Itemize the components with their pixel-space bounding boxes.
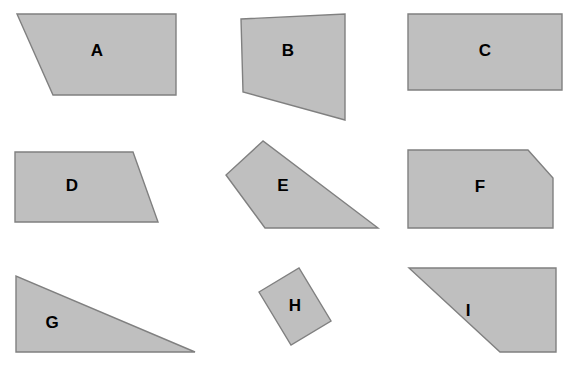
shape-i-outline[interactable] [409,268,556,352]
shape-label-a: A [91,41,103,60]
shape-c[interactable]: C [408,14,562,90]
shape-label-e: E [277,176,288,195]
shape-label-h: H [289,296,301,315]
shape-b[interactable]: B [241,14,345,120]
shapes-diagram: ABCDEFGHI [0,0,570,367]
shape-label-g: G [45,313,58,332]
shape-d-outline[interactable] [15,152,158,222]
shape-label-f: F [475,177,485,196]
shape-a[interactable]: A [17,14,176,95]
shape-g[interactable]: G [16,276,195,352]
shape-e[interactable]: E [226,141,378,228]
shape-e-outline[interactable] [226,141,378,228]
shape-f[interactable]: F [408,150,553,228]
shape-i[interactable]: I [409,268,556,352]
shape-b-outline[interactable] [241,14,345,120]
shape-h[interactable]: H [259,268,331,345]
shape-label-c: C [479,41,491,60]
shape-label-b: B [282,41,294,60]
shape-canvas: ABCDEFGHI [0,0,570,367]
shape-label-d: D [66,176,78,195]
shape-group: ABCDEFGHI [15,14,562,352]
shape-d[interactable]: D [15,152,158,222]
shape-label-i: I [466,301,471,320]
shape-g-outline[interactable] [16,276,195,352]
